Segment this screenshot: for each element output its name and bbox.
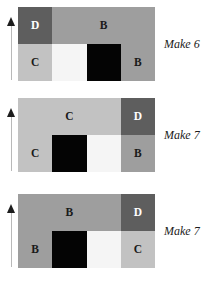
block-2-grid: CDCB — [18, 98, 155, 172]
block-1-caption: Make 6 — [164, 7, 224, 81]
block-2-top-row: CD — [18, 98, 155, 135]
grid-cell[interactable]: B — [121, 135, 155, 172]
grid-cell[interactable]: B — [52, 7, 155, 44]
cell-label: B — [31, 244, 39, 256]
up-arrow-icon — [6, 17, 18, 81]
grid-cell[interactable]: B — [121, 44, 155, 81]
block-3-grid: BDBC — [18, 194, 155, 268]
caption-text: Make 7 — [164, 128, 200, 143]
grid-cell[interactable] — [52, 44, 86, 81]
cell-label: D — [134, 111, 142, 123]
cell-label: D — [134, 207, 142, 219]
cell-label: B — [100, 20, 108, 32]
cell-label: B — [134, 148, 142, 160]
cell-label: C — [134, 244, 142, 256]
block-2-caption: Make 7 — [164, 98, 224, 172]
grid-cell[interactable]: D — [18, 7, 52, 44]
cell-label: B — [66, 207, 74, 219]
cell-label: D — [31, 20, 39, 32]
grid-cell[interactable] — [52, 231, 86, 268]
up-arrow-icon — [6, 108, 18, 172]
arrow-head — [7, 17, 15, 26]
block-2-bottom-row: CB — [18, 135, 155, 172]
block-1-top-row: DB — [18, 7, 155, 44]
block-3: BDBCMake 7 — [0, 194, 224, 268]
block-3-top-row: BD — [18, 194, 155, 231]
grid-cell[interactable] — [87, 135, 121, 172]
up-arrow-icon — [6, 204, 18, 268]
arrow-head — [7, 108, 15, 117]
block-1-bottom-row: CB — [18, 44, 155, 81]
grid-cell[interactable]: C — [18, 98, 121, 135]
block-1: DBCBMake 6 — [0, 7, 224, 81]
block-2: CDCBMake 7 — [0, 98, 224, 172]
grid-cell[interactable]: C — [18, 44, 52, 81]
cell-label: C — [31, 57, 39, 69]
block-3-caption: Make 7 — [164, 194, 224, 268]
grid-cell[interactable]: C — [18, 135, 52, 172]
grid-cell[interactable] — [87, 44, 121, 81]
grid-cell[interactable] — [52, 135, 86, 172]
grid-cell[interactable]: B — [18, 231, 52, 268]
grid-cell[interactable]: D — [121, 98, 155, 135]
arrow-shaft — [11, 22, 12, 80]
arrow-head — [7, 204, 15, 213]
cell-label: C — [31, 148, 39, 160]
cell-label: C — [65, 111, 73, 123]
diagram-canvas: DBCBMake 6CDCBMake 7BDBCMake 7 — [0, 0, 224, 284]
block-1-grid: DBCB — [18, 7, 155, 81]
grid-cell[interactable]: C — [121, 231, 155, 268]
caption-text: Make 6 — [164, 37, 200, 52]
block-3-bottom-row: BC — [18, 231, 155, 268]
caption-text: Make 7 — [164, 224, 200, 239]
grid-cell[interactable]: B — [18, 194, 121, 231]
arrow-shaft — [11, 209, 12, 267]
grid-cell[interactable] — [87, 231, 121, 268]
cell-label: B — [134, 57, 142, 69]
arrow-shaft — [11, 113, 12, 171]
grid-cell[interactable]: D — [121, 194, 155, 231]
